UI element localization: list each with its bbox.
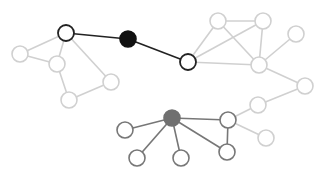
network-graph — [0, 0, 324, 179]
node-b7 — [250, 97, 266, 113]
edge-a1-a5 — [66, 33, 111, 82]
node-hub_black — [120, 31, 136, 47]
node-b6 — [297, 78, 313, 94]
edge-b1-b5 — [188, 62, 259, 65]
node-a2 — [12, 46, 28, 62]
node-a5 — [103, 74, 119, 90]
graph-nodes — [12, 13, 313, 166]
node-b1 — [180, 54, 196, 70]
node-c4 — [220, 112, 236, 128]
node-c2 — [129, 150, 145, 166]
edge-hub_black-b1 — [128, 39, 188, 62]
node-c5 — [219, 144, 235, 160]
edge-b1-b3 — [188, 21, 263, 62]
edge-c_hub-c5 — [172, 118, 227, 152]
node-c3 — [173, 150, 189, 166]
node-a3 — [49, 56, 65, 72]
node-c_hub — [164, 110, 180, 126]
node-c1 — [117, 122, 133, 138]
node-b2 — [210, 13, 226, 29]
node-a1 — [58, 25, 74, 41]
node-b4 — [288, 26, 304, 42]
node-b5 — [251, 57, 267, 73]
node-b3 — [255, 13, 271, 29]
node-a4 — [61, 92, 77, 108]
edge-a1-hub_black — [66, 33, 128, 39]
node-c6 — [258, 130, 274, 146]
